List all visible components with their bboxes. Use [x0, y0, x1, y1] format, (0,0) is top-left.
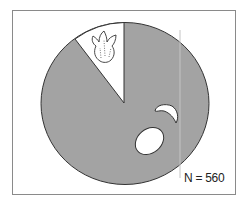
sample-size-label: N = 560 — [184, 171, 224, 185]
pie-slice-gray — [41, 23, 209, 185]
